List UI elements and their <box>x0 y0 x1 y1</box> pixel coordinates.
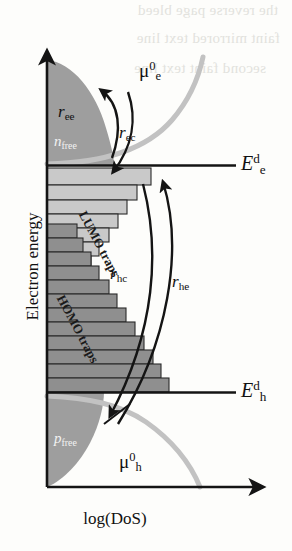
homo-bar <box>47 252 91 266</box>
homo-bar <box>47 238 83 252</box>
homo-bar <box>47 378 169 392</box>
mu-e-label: μ0e <box>139 60 161 83</box>
y-axis-label: Electron energy <box>24 187 41 347</box>
E-h-subscript: h <box>260 389 267 404</box>
p-free-label: pfree <box>54 430 77 448</box>
rate-r-he-label: rhe <box>172 273 189 292</box>
homo-bar <box>47 266 99 280</box>
demarcation-energy-hole-label: Edh <box>241 379 266 403</box>
homo-bar <box>47 322 135 336</box>
mu-e-base: μ <box>139 60 149 81</box>
mu-h-subscript: h <box>135 460 141 474</box>
mu-e-subscript: e <box>155 69 161 83</box>
r-ee-base: r <box>58 102 65 121</box>
homo-bar <box>47 224 77 238</box>
mu-h-label: μ0h <box>119 451 142 474</box>
n-free-label: nfree <box>54 133 77 151</box>
E-e-base: E <box>241 152 253 174</box>
p-free-base: p <box>54 430 62 446</box>
x-axis-label: log(DoS) <box>0 510 230 527</box>
lumo-bar <box>47 185 137 200</box>
r-ee-subscript: ee <box>65 110 75 122</box>
r-he-subscript: he <box>179 280 190 292</box>
p-free-subscript: free <box>62 437 77 448</box>
n-free-base: n <box>54 133 62 149</box>
lumo-bar <box>47 168 151 185</box>
dos-energy-diagram: the reverse page bleed faint mirrored te… <box>0 0 292 551</box>
E-e-superscript: d <box>253 151 260 166</box>
r-ec-base: r <box>119 123 126 142</box>
E-h-superscript: d <box>253 378 260 393</box>
rate-r-ee-label: ree <box>58 103 75 122</box>
mu-h-base: μ <box>119 451 129 472</box>
r-ec-subscript: ec <box>126 131 136 143</box>
diagram-canvas <box>0 0 292 551</box>
E-h-base: E <box>241 379 253 401</box>
demarcation-energy-electron-label: Ede <box>241 152 266 176</box>
rate-r-ec-label: rec <box>119 124 136 143</box>
E-e-subscript: e <box>260 162 266 177</box>
homo-bar <box>47 280 109 294</box>
r-he-base: r <box>172 272 179 291</box>
n-free-subscript: free <box>62 140 77 151</box>
